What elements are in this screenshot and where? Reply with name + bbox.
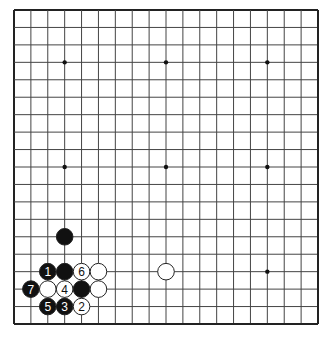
white-stone [90, 263, 107, 280]
go-board: 1674532 [0, 0, 331, 339]
black-stone [56, 263, 73, 280]
black-stone [73, 281, 90, 298]
move-number: 3 [61, 300, 68, 314]
black-stone [56, 228, 73, 245]
move-number: 2 [78, 300, 85, 314]
black-stone: 3 [56, 298, 73, 315]
star-point [62, 165, 66, 169]
white-stone: 6 [73, 263, 90, 280]
black-stone: 5 [39, 298, 56, 315]
move-number: 7 [28, 283, 35, 297]
star-point [265, 165, 269, 169]
white-stone [90, 281, 107, 298]
star-point [265, 60, 269, 64]
move-number: 1 [44, 265, 51, 279]
white-stone: 4 [56, 281, 73, 298]
white-stone: 2 [73, 298, 90, 315]
star-point [164, 60, 168, 64]
star-point [164, 165, 168, 169]
white-stone [39, 281, 56, 298]
move-number: 4 [61, 283, 68, 297]
star-point [265, 269, 269, 273]
black-stone: 7 [23, 281, 40, 298]
star-point [62, 60, 66, 64]
black-stone: 1 [39, 263, 56, 280]
move-number: 6 [78, 265, 85, 279]
move-number: 5 [44, 300, 51, 314]
white-stone [158, 263, 175, 280]
